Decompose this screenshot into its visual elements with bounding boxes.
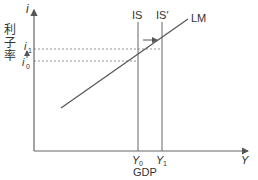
i0-tick-label: i	[22, 56, 25, 68]
lm-curve	[61, 19, 188, 108]
x-axis-label: GDP	[133, 166, 157, 178]
is-label: IS	[132, 9, 142, 21]
y-axis-symbol: i	[26, 2, 29, 16]
y-axis-label-char-1: 利	[4, 23, 16, 37]
i1-tick-sub: 1	[28, 47, 32, 54]
i0-tick-sub: 0	[26, 63, 30, 70]
x-axis-symbol: Y	[241, 154, 249, 166]
y-axis-label-char-3: 率	[4, 48, 16, 63]
is-prime-label: IS′	[156, 9, 168, 21]
i1-tick-label: i	[24, 40, 27, 52]
lm-label: LM	[191, 12, 206, 24]
y1-tick-sub: 1	[163, 160, 167, 167]
is-lm-diagram: i 利 子 率 i 1 i 0 IS IS′ LM Y 0 Y 1 GDP Y	[0, 0, 258, 180]
y-axis-label-char-2: 子	[4, 36, 16, 50]
